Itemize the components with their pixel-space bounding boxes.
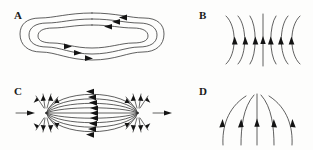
panel-a-label: A: [14, 9, 22, 21]
figure-canvas: A: [0, 0, 313, 150]
panel-c-label: C: [14, 85, 22, 97]
panel-b-label: B: [199, 9, 207, 21]
field-pattern-figure: A: [0, 0, 313, 150]
panel-d-label: D: [199, 85, 207, 97]
figure-background: [0, 0, 313, 150]
